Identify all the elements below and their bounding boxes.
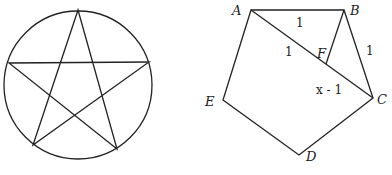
label-AB-length: 1 xyxy=(296,16,304,30)
label-A: A xyxy=(231,3,241,18)
segment-BF xyxy=(326,10,344,64)
label-BC-length: 1 xyxy=(366,44,374,58)
label-D: D xyxy=(305,149,317,164)
label-B: B xyxy=(349,3,360,18)
diagram-canvas: A B C D E F 1 1 1 x - 1 xyxy=(0,0,392,175)
label-C: C xyxy=(377,92,387,107)
diagonal-AC xyxy=(251,10,373,98)
label-FC-length: x - 1 xyxy=(316,83,342,97)
pentagram-figure xyxy=(4,10,152,159)
label-AF-length: 1 xyxy=(285,45,293,59)
label-E: E xyxy=(204,94,215,109)
segment-labels: 1 1 1 x - 1 xyxy=(285,16,374,97)
circumscribed-circle xyxy=(4,11,152,159)
pentagon-figure xyxy=(223,10,373,155)
label-F: F xyxy=(316,46,327,61)
